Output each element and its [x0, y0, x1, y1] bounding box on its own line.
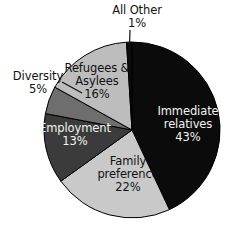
pie-label-family-preference-name-line2: preference	[92, 168, 164, 181]
pie-label-family-preference: Family preference 22%	[92, 155, 164, 194]
pie-label-employment: Employment 13%	[34, 122, 116, 148]
pie-label-refugees-asylees-name-line2: Asylees	[60, 75, 134, 88]
pie-chart: All Other 1% Diversity 5% Refugees & Asy…	[0, 0, 236, 231]
pie-label-immediate-relatives-name-line1: Immediate	[152, 105, 224, 118]
leader-line-all-other	[130, 30, 131, 46]
pie-label-refugees-asylees-name-line1: Refugees &	[60, 62, 134, 75]
pie-label-refugees-asylees-value: 16%	[60, 88, 134, 101]
pie-label-immediate-relatives-value: 43%	[152, 131, 224, 144]
pie-label-refugees-asylees: Refugees & Asylees 16%	[60, 62, 134, 101]
pie-label-family-preference-value: 22%	[92, 181, 164, 194]
pie-label-family-preference-name-line1: Family	[92, 155, 164, 168]
pie-label-all-other-name: All Other	[92, 4, 182, 17]
pie-label-immediate-relatives: Immediate relatives 43%	[152, 105, 224, 144]
pie-label-all-other-value: 1%	[92, 17, 182, 30]
pie-label-all-other: All Other 1%	[92, 4, 182, 30]
pie-label-immediate-relatives-name-line2: relatives	[152, 118, 224, 131]
pie-label-employment-value: 13%	[34, 135, 116, 148]
pie-label-employment-name: Employment	[34, 122, 116, 135]
